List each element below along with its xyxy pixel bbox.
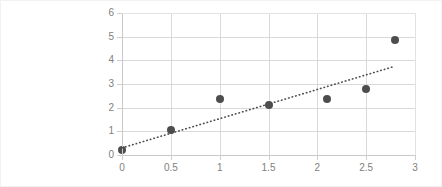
y-axis-tick-mark bbox=[117, 60, 122, 61]
x-axis-tick-mark bbox=[171, 155, 172, 160]
x-axis-tick-mark bbox=[415, 155, 416, 160]
x-axis-tick-mark bbox=[122, 155, 123, 160]
y-axis-line bbox=[122, 13, 123, 156]
y-axis-tick-mark bbox=[117, 13, 122, 14]
data-point bbox=[265, 101, 273, 109]
data-point bbox=[216, 95, 224, 103]
y-axis-tick-label: 1 bbox=[108, 126, 114, 136]
plot-area bbox=[122, 13, 415, 155]
x-axis-tick-label: 1.5 bbox=[262, 163, 276, 173]
y-axis-tick-mark bbox=[117, 84, 122, 85]
x-axis-tick-label: 0.5 bbox=[164, 163, 178, 173]
x-axis-tick-mark bbox=[317, 155, 318, 160]
x-axis-tick-label: 2.5 bbox=[359, 163, 373, 173]
x-axis-tick-mark bbox=[269, 155, 270, 160]
y-axis-tick-mark bbox=[117, 37, 122, 38]
y-axis-tick-mark bbox=[117, 131, 122, 132]
gridline-vertical bbox=[220, 13, 221, 155]
x-axis-tick-label: 1 bbox=[217, 163, 223, 173]
x-axis-tick-label: 3 bbox=[412, 163, 418, 173]
gridline-vertical bbox=[269, 13, 270, 155]
gridline-vertical bbox=[317, 13, 318, 155]
data-point bbox=[167, 126, 175, 134]
x-axis-tick-label: 2 bbox=[315, 163, 321, 173]
x-axis-tick-labels: 00.511.522.53 bbox=[0, 163, 442, 177]
plot-right-border bbox=[415, 13, 416, 156]
y-axis-tick-mark bbox=[117, 108, 122, 109]
gridline-vertical bbox=[366, 13, 367, 155]
scatter-chart-figure: 0123456 00.511.522.53 bbox=[0, 0, 442, 187]
y-axis-tick-label: 2 bbox=[108, 103, 114, 113]
y-axis-tick-label: 0 bbox=[108, 150, 114, 160]
x-axis-tick-mark bbox=[366, 155, 367, 160]
data-point bbox=[391, 36, 399, 44]
y-axis-tick-label: 6 bbox=[108, 8, 114, 18]
x-axis-tick-label: 0 bbox=[119, 163, 125, 173]
data-point bbox=[362, 85, 370, 93]
y-axis-tick-label: 5 bbox=[108, 32, 114, 42]
y-axis-tick-labels: 0123456 bbox=[100, 0, 114, 187]
data-point bbox=[323, 95, 331, 103]
y-axis-tick-label: 4 bbox=[108, 55, 114, 65]
y-axis-tick-label: 3 bbox=[108, 79, 114, 89]
x-axis-tick-mark bbox=[220, 155, 221, 160]
plot-top-border bbox=[122, 13, 416, 14]
